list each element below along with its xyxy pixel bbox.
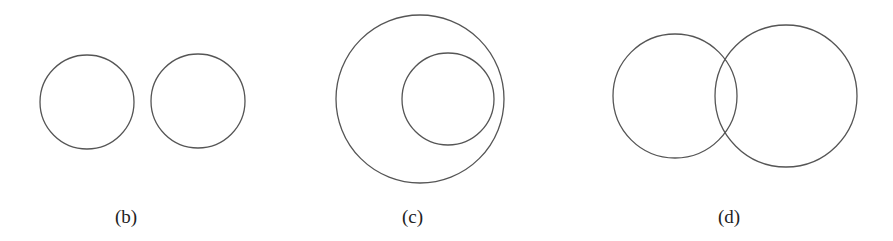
panel-d-circle-left [613, 34, 737, 158]
panel-c-label: (c) [402, 207, 423, 226]
panel-d-label: (d) [718, 207, 740, 226]
panel-b-circle-left [40, 55, 134, 149]
panel-c-circle-outer [336, 15, 504, 183]
panel-d-circles [613, 25, 857, 167]
panel-c-circles [336, 15, 504, 183]
panel-b-circles [40, 54, 245, 149]
panel-d-circle-right [715, 25, 857, 167]
circle-relations-diagram [0, 0, 893, 241]
panel-b-label: (b) [115, 207, 137, 226]
panel-b-circle-right [151, 54, 245, 148]
panel-c-circle-inner [402, 53, 494, 145]
